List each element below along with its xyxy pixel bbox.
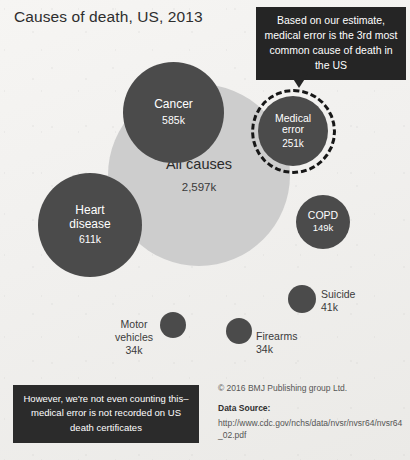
infographic-canvas: Causes of death, US, 2013 All causes 2,5… <box>0 0 410 460</box>
bubble-motor-vehicles[interactable] <box>160 312 186 338</box>
callout-box: Based on our estimate, medical error is … <box>256 7 406 80</box>
bubble-motor-vehicles-label-line2: vehicles <box>110 331 158 344</box>
bubble-suicide-label-group: Suicide 41k <box>321 288 355 314</box>
bubble-motor-vehicles-label-line1: Motor <box>121 318 148 330</box>
callout-arrow-icon <box>290 74 308 88</box>
bubble-copd-label: COPD <box>308 210 338 222</box>
bubble-cancer-label: Cancer <box>154 98 193 111</box>
bubble-motor-vehicles-label-group: Motor vehicles 34k <box>110 318 158 357</box>
bubble-firearms-value: 34k <box>256 343 297 356</box>
bubble-medical-error-value: 251k <box>282 138 304 149</box>
bubble-heart-disease-label-line2: disease <box>69 218 110 231</box>
credits-block: © 2016 BMJ Publishing group Ltd. Data So… <box>218 382 403 441</box>
bubble-firearms[interactable] <box>226 318 252 344</box>
bubble-cancer-value: 585k <box>162 115 185 127</box>
bubble-motor-vehicles-value: 34k <box>110 344 158 357</box>
bubble-suicide[interactable] <box>288 285 316 313</box>
bubble-suicide-label: Suicide <box>321 288 355 300</box>
bubble-all-causes-value: 2,597k <box>182 181 217 194</box>
bubble-heart-disease-label-line1: Heart <box>75 204 104 217</box>
bubble-copd[interactable]: COPD 149k <box>296 195 350 249</box>
bubble-cancer[interactable]: Cancer 585k <box>123 62 224 163</box>
data-source-url[interactable]: http://www.cdc.gov/nchs/data/nvsr/nvsr64… <box>218 417 403 442</box>
bubble-medical-error[interactable]: Medical error 251k <box>258 96 328 166</box>
bubble-heart-disease-value: 611k <box>79 234 101 246</box>
bubble-heart-disease[interactable]: Heart disease 611k <box>38 173 142 277</box>
bubble-copd-value: 149k <box>313 223 334 234</box>
copyright-text: © 2016 BMJ Publishing group Ltd. <box>218 382 403 394</box>
data-source-label: Data Source: <box>218 402 403 414</box>
bubble-firearms-label-group: Firearms 34k <box>256 330 297 356</box>
bubble-firearms-label: Firearms <box>256 330 297 342</box>
bubble-medical-error-label-line2: error <box>282 124 304 136</box>
bottom-note-box: However, we're not even counting this–me… <box>13 385 199 443</box>
bubble-suicide-value: 41k <box>321 301 355 314</box>
